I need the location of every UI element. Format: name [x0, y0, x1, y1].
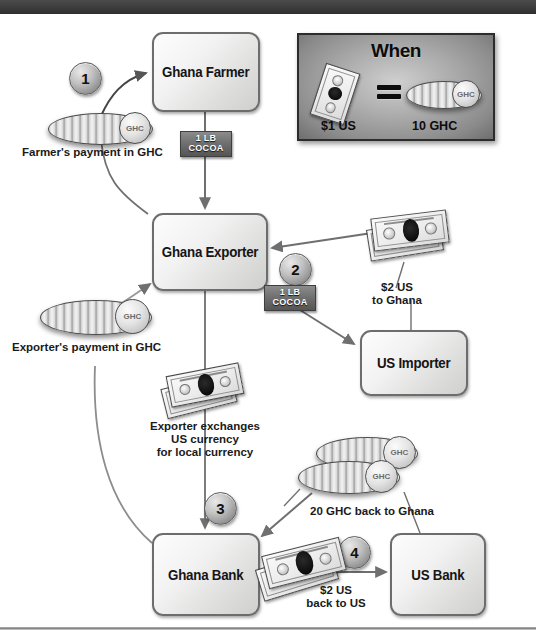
- node-ghana-exporter-label: Ghana Exporter: [162, 243, 258, 261]
- caption-exchange-line3: for local currency: [141, 446, 269, 459]
- caption-usd-to-ghana-line2: to Ghana: [368, 294, 426, 307]
- node-us-importer-label: US Importer: [377, 354, 450, 372]
- caption-exporters-payment: Exporter's payment in GHC: [12, 341, 161, 354]
- coin-face: GHC: [115, 299, 150, 334]
- link-usd-to-exporter: [272, 233, 372, 248]
- node-ghana-farmer[interactable]: Ghana Farmer: [152, 32, 260, 112]
- coin-face: GHC: [365, 460, 398, 493]
- exchange-rate-title: When: [299, 40, 493, 62]
- link-ghc-to-ghana-bank: [262, 493, 312, 536]
- dollar-note-front: [310, 63, 361, 125]
- step-badge-4-number: 4: [350, 544, 358, 561]
- coin-face-label: GHC: [126, 124, 144, 133]
- coin-face-label: GHC: [373, 472, 391, 481]
- caption-usd-back-line2: back to US: [288, 597, 384, 610]
- coin-stack-ten-ghc: GHC: [406, 81, 480, 107]
- coin-face: GHC: [452, 80, 480, 108]
- node-ghana-farmer-label: Ghana Farmer: [162, 63, 249, 81]
- exchange-rate-panel: When GHC $1 US 10 GHC: [297, 33, 495, 141]
- caption-exchange-line1: Exporter exchanges: [141, 420, 269, 433]
- coin-stack-farmers-payment: GHC: [48, 113, 151, 143]
- cocoa-chip-exporter-to-importer: 1 LB COCOA: [264, 285, 316, 311]
- step-badge-3: 3: [204, 492, 237, 525]
- coin-face: GHC: [119, 112, 151, 144]
- node-ghana-bank-label: Ghana Bank: [168, 566, 243, 584]
- node-us-bank[interactable]: US Bank: [390, 533, 486, 616]
- bill-exporter-exchange: [163, 366, 245, 416]
- caption-usd-back-line1: $2 US: [296, 584, 376, 597]
- diagram-canvas: Ghana Farmer Ghana Exporter US Importer …: [0, 0, 536, 642]
- cocoa-chip-farmer-to-exporter: 1 LB COCOA: [180, 131, 232, 157]
- coin-face-label: GHC: [124, 312, 142, 321]
- step-badge-2-number: 2: [291, 261, 299, 278]
- step-badge-2: 2: [279, 253, 312, 286]
- exchange-rate-right-value: 10 GHC: [412, 119, 457, 133]
- caption-usd-to-ghana-line1: $2 US: [368, 281, 426, 294]
- link-coins-to-farmer: [101, 73, 146, 116]
- step-badge-1: 1: [69, 62, 102, 95]
- node-ghana-bank[interactable]: Ghana Bank: [152, 533, 260, 616]
- coin-stack-exporters-payment: GHC: [40, 300, 150, 333]
- coin-stack-20ghc-back-bottom: GHC: [298, 461, 398, 492]
- cocoa-chip-1-line2: COCOA: [186, 144, 226, 154]
- coin-face-label: GHC: [457, 90, 475, 99]
- bill-one-dollar: [315, 65, 371, 121]
- caption-ghc-back-to-ghana: 20 GHC back to Ghana: [310, 505, 434, 518]
- bill-usd-to-ghana: [366, 210, 448, 262]
- equals-icon: [377, 85, 401, 99]
- exchange-rate-left-value: $1 US: [321, 119, 356, 133]
- step-badge-3-number: 3: [216, 500, 224, 517]
- step-badge-1-number: 1: [81, 70, 89, 87]
- node-ghana-exporter[interactable]: Ghana Exporter: [152, 213, 268, 291]
- node-us-importer[interactable]: US Importer: [360, 330, 468, 396]
- link-cocoa2-to-importer: [300, 310, 354, 344]
- node-us-bank-label: US Bank: [411, 566, 464, 584]
- caption-farmers-payment: Farmer's payment in GHC: [22, 146, 163, 159]
- caption-exchange-line2: US currency: [141, 433, 269, 446]
- coin-face-label: GHC: [391, 448, 409, 457]
- cocoa-chip-2-line2: COCOA: [270, 298, 310, 308]
